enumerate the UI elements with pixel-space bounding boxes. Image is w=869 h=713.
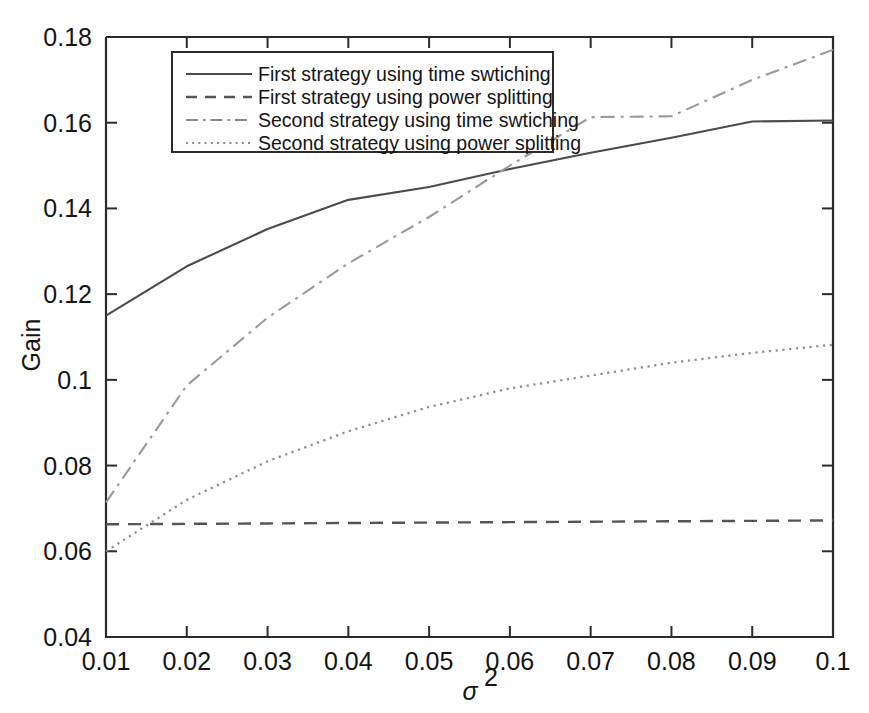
y-axis-tick-labels: 0.040.060.080.10.120.140.160.18 [43, 23, 92, 651]
y-tick-label: 0.18 [43, 23, 92, 51]
legend-label-3: Second strategy using time swtiching [258, 109, 579, 131]
x-tick-label: 0.08 [647, 647, 696, 675]
legend-label-4: Second strategy using power splitting [258, 132, 581, 154]
y-axis-ticks [106, 123, 833, 552]
y-tick-label: 0.1 [57, 366, 92, 394]
figure-container: 0.010.020.030.040.050.060.070.080.090.1 … [0, 0, 869, 713]
legend-label-2: First strategy using power splitting [258, 86, 553, 108]
x-tick-label: 0.09 [728, 647, 777, 675]
legend-label-1: First strategy using time swtiching [258, 63, 551, 85]
x-tick-label: 0.05 [405, 647, 454, 675]
y-tick-label: 0.06 [43, 537, 92, 565]
gain-vs-sigma-squared-chart: 0.010.020.030.040.050.060.070.080.090.1 … [0, 0, 869, 713]
y-axis-title: Gain [17, 319, 45, 372]
x-axis-title-base: σ [462, 677, 478, 705]
x-tick-label: 0.07 [566, 647, 615, 675]
x-tick-label: 0.01 [82, 647, 131, 675]
series-line-2 [106, 520, 833, 524]
x-axis-title-exponent: 2 [484, 663, 498, 691]
y-tick-label: 0.04 [43, 623, 92, 651]
x-axis-tick-labels: 0.010.020.030.040.050.060.070.080.090.1 [82, 647, 851, 675]
x-axis-title: σ 2 [462, 663, 497, 705]
y-tick-label: 0.16 [43, 109, 92, 137]
y-tick-label: 0.14 [43, 194, 92, 222]
x-tick-label: 0.1 [816, 647, 851, 675]
x-tick-label: 0.03 [243, 647, 292, 675]
legend: First strategy using time swtichingFirst… [172, 52, 581, 154]
x-tick-label: 0.04 [324, 647, 373, 675]
y-tick-label: 0.12 [43, 280, 92, 308]
y-tick-label: 0.08 [43, 452, 92, 480]
x-tick-label: 0.02 [162, 647, 211, 675]
